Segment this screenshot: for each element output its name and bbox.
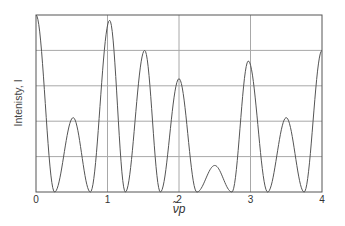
x-tick-label: 4	[319, 194, 325, 205]
x-tick-label: 3	[248, 194, 254, 205]
y-axis-label: Intenisty, I	[12, 79, 24, 126]
x-axis-label: ν̃p	[173, 201, 186, 216]
grid-lines	[36, 15, 322, 192]
intensity-chart: 01234 ν̃p Intenisty, I	[0, 0, 345, 226]
x-tick-label: 1	[105, 194, 111, 205]
x-tick-label: 0	[33, 194, 39, 205]
